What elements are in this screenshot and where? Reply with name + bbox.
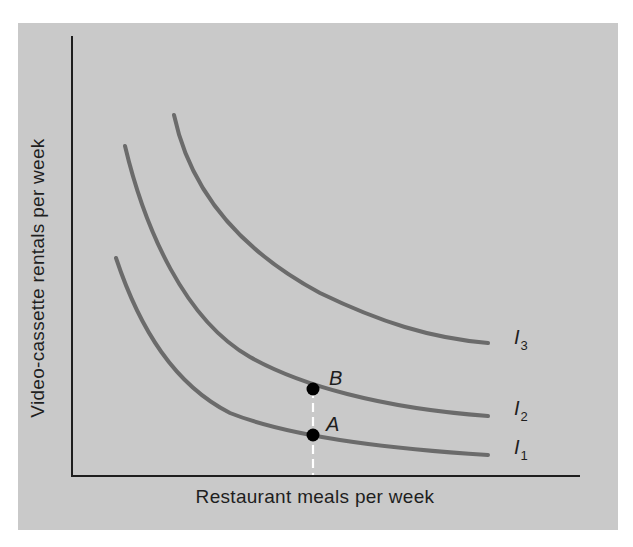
curve-i3-label-sub: 3: [521, 338, 528, 353]
curve-i3: [174, 115, 488, 343]
curve-i3-label-main: I: [514, 326, 520, 348]
x-axis-title: Restaurant meals per week: [150, 486, 480, 508]
point-b-label: B: [329, 367, 342, 390]
curve-i1-label: I1: [514, 436, 528, 463]
curve-i1-label-main: I: [514, 436, 520, 458]
y-axis-title: Video-cassette rentals per week: [27, 98, 49, 458]
curve-i2-label-sub: 2: [521, 409, 528, 424]
curve-i2-label-main: I: [514, 397, 520, 419]
curve-i1: [116, 258, 488, 455]
point-a-marker: [307, 429, 320, 442]
point-b-marker: [307, 383, 320, 396]
point-a-label: A: [326, 413, 339, 436]
chart-svg: [0, 0, 633, 547]
curve-i1-label-sub: 1: [521, 448, 528, 463]
curve-i2-label: I2: [514, 397, 528, 424]
curve-i3-label: I3: [514, 326, 528, 353]
